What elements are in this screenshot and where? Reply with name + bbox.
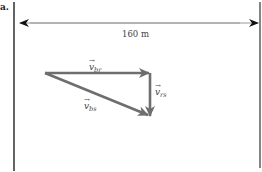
vector-label-v-bs: →vbs: [84, 102, 97, 113]
vector-subscript: bs: [89, 105, 97, 113]
vector-arrow-accent: →: [89, 58, 95, 65]
vector-label-v-rs: →vrs: [155, 88, 167, 99]
vector-arrow-accent: →: [155, 83, 161, 90]
diagram-graphics: [0, 0, 262, 172]
vector-subscript: br: [94, 66, 101, 74]
vector-subscript: rs: [160, 91, 166, 99]
vector-arrow-accent: →: [84, 97, 90, 104]
distance-label: 160 m: [122, 30, 149, 39]
river-crossing-diagram: a. 160 m →vbr →vrs →vbs: [0, 0, 262, 172]
vector-label-v-br: →vbr: [89, 63, 101, 74]
part-label: a.: [0, 3, 9, 12]
